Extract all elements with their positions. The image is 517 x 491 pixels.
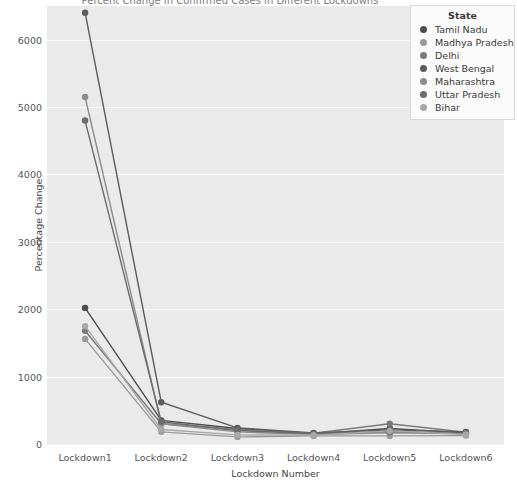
data-point — [310, 432, 316, 438]
legend-item-label: Delhi — [435, 50, 459, 61]
legend-item[interactable]: Uttar Pradesh — [417, 88, 508, 101]
data-point — [82, 336, 88, 342]
legend-item-label: West Bengal — [435, 63, 494, 74]
legend-item[interactable]: Tamil Nadu — [417, 23, 508, 36]
legend-rows: Tamil NaduMadhya PradeshDelhiWest Bengal… — [417, 23, 508, 114]
series-line — [85, 13, 466, 433]
legend-item-label: Bihar — [435, 102, 460, 113]
data-point — [158, 426, 164, 432]
data-point — [463, 431, 469, 437]
legend-item[interactable]: Delhi — [417, 49, 508, 62]
legend-title: State — [417, 10, 508, 21]
chart-root: Percent Change in Confirmed Cases in Dif… — [0, 0, 517, 491]
data-point — [82, 323, 88, 329]
legend-item[interactable]: Bihar — [417, 101, 508, 114]
legend-item-label: Maharashtra — [435, 76, 495, 87]
data-point — [158, 399, 164, 405]
series-line — [85, 308, 466, 434]
legend-item[interactable]: Madhya Pradesh — [417, 36, 508, 49]
data-point — [82, 10, 88, 16]
data-point — [82, 305, 88, 311]
data-point — [387, 421, 393, 427]
legend-marker-icon — [420, 26, 427, 33]
data-point — [82, 117, 88, 123]
legend-marker-icon — [420, 52, 427, 59]
series-line — [85, 97, 466, 435]
data-point — [387, 428, 393, 434]
legend-marker-icon — [420, 39, 427, 46]
data-point — [82, 94, 88, 100]
legend-item-label: Uttar Pradesh — [435, 89, 500, 100]
data-point — [158, 419, 164, 425]
legend: State Tamil NaduMadhya PradeshDelhiWest … — [410, 5, 515, 120]
series-line — [85, 339, 466, 437]
legend-item-label: Madhya Pradesh — [435, 37, 514, 48]
legend-marker-icon — [420, 78, 427, 85]
legend-item-label: Tamil Nadu — [435, 24, 488, 35]
data-point — [234, 432, 240, 438]
legend-item[interactable]: Maharashtra — [417, 75, 508, 88]
series-line — [85, 121, 466, 434]
legend-item[interactable]: West Bengal — [417, 62, 508, 75]
legend-marker-icon — [420, 91, 427, 98]
legend-marker-icon — [420, 65, 427, 72]
legend-marker-icon — [420, 104, 427, 111]
